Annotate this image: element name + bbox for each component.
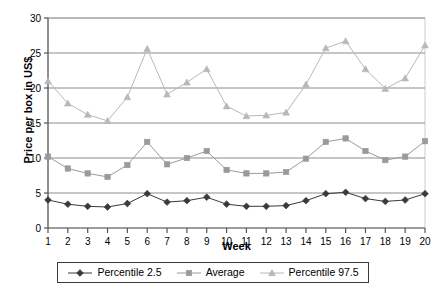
legend-item-percentile-low: Percentile 2.5 [60,267,168,278]
legend-label: Percentile 2.5 [97,267,161,278]
square-marker-icon [176,268,202,278]
legend-label: Percentile 97.5 [289,267,359,278]
svg-text:5: 5 [35,188,41,199]
svg-text:30: 30 [30,13,42,24]
legend-label: Average [206,267,245,278]
x-axis-title: Week [48,240,425,252]
svg-text:0: 0 [35,223,41,234]
legend-item-percentile-high: Percentile 97.5 [252,267,366,278]
chart-container: 0510152025301234567891011121314151617181… [0,0,435,290]
y-axis-title: Price per box in US$ [22,30,34,190]
diamond-marker-icon [67,268,93,278]
triangle-marker-icon [259,268,285,278]
legend-item-average: Average [169,267,252,278]
chart-legend: Percentile 2.5 Average Percentile 97.5 [57,262,369,283]
